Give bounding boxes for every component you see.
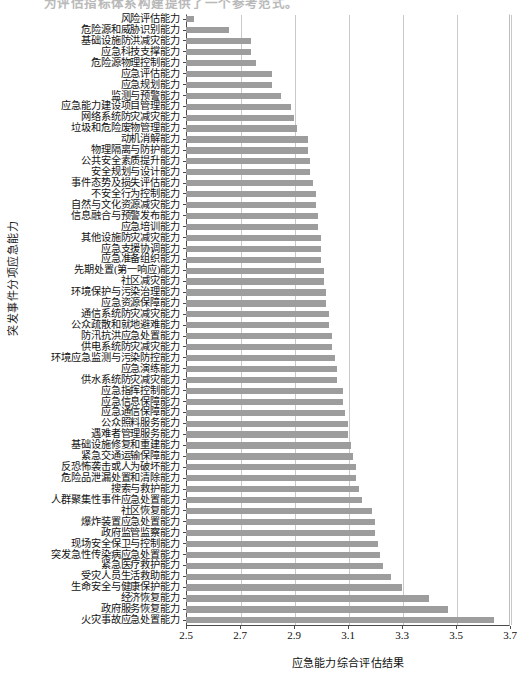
category-label: 危险源物理控制能力 (91, 58, 180, 69)
plot-area (186, 14, 510, 626)
category-label: 应急规划能力 (121, 80, 180, 91)
gridline (457, 15, 458, 625)
category-label: 现场安全保卫与控制能力 (71, 539, 180, 550)
category-label: 火灾事故应急处置能力 (81, 615, 180, 626)
category-label: 应急评估能力 (121, 69, 180, 80)
category-label: 其他设施防灾减灾能力 (81, 233, 180, 244)
cut-off-body-text: 为评估指标体系构建提供了一个参考范式。 (44, 0, 344, 9)
gridline (241, 15, 242, 625)
gridline (511, 15, 512, 625)
chart-page: 为评估指标体系构建提供了一个参考范式。 突发事件分项应急能力 风险评估能力危险源… (0, 0, 530, 680)
x-tick-label: 2.5 (179, 629, 193, 641)
x-tick-label: 3.5 (449, 629, 463, 641)
gridline (349, 15, 350, 625)
x-axis-title: 应急能力综合评估结果 (186, 654, 510, 670)
gridline (295, 15, 296, 625)
x-tick-label: 3.7 (503, 629, 517, 641)
category-label: 应急培训能力 (121, 222, 180, 233)
x-tick-label: 3.3 (395, 629, 409, 641)
category-label: 应急演练能力 (121, 364, 180, 375)
x-tick-label: 2.7 (233, 629, 247, 641)
category-label: 应急指挥控制能力 (101, 386, 180, 397)
category-label: 供水系统防灾减灾能力 (81, 375, 180, 386)
category-axis-labels: 风险评估能力危险源和威胁识别能力基础设施防洪减灾能力应急科技支撑能力危险源物理控… (0, 14, 183, 626)
gridline (403, 15, 404, 625)
x-tick-label: 3.1 (341, 629, 355, 641)
category-label: 信息融合与预警发布能力 (71, 211, 180, 222)
category-label: 政府监管监察能力 (101, 528, 180, 539)
category-label: 爆炸装置应急处置能力 (81, 517, 180, 528)
x-tick-label: 2.9 (287, 629, 301, 641)
